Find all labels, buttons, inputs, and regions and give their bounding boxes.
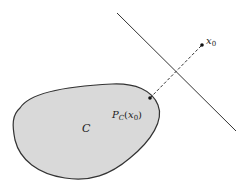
label-x0: x0: [206, 35, 216, 48]
point-x0: [200, 43, 204, 47]
projection-point: [148, 96, 152, 100]
projection-diagram: x0 PC(x0) C: [0, 0, 243, 189]
label-set-c: C: [82, 122, 91, 135]
